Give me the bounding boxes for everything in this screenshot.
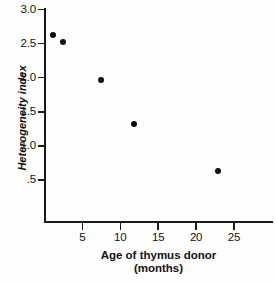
y-axis-tick — [38, 111, 45, 113]
x-axis-tick-label: 25 — [219, 231, 249, 243]
y-axis-tick-label: 3.0 — [0, 3, 36, 15]
x-axis-tick-label: 5 — [67, 231, 97, 243]
x-axis-tick — [157, 223, 159, 230]
data-point — [60, 39, 66, 45]
x-axis-tick — [233, 223, 235, 230]
x-axis-tick — [120, 223, 122, 230]
y-axis-tick-label: 2.5 — [0, 37, 36, 49]
y-axis-tick — [38, 77, 45, 79]
data-point — [131, 121, 137, 127]
x-axis-tick-label: 10 — [105, 231, 135, 243]
data-point — [50, 32, 56, 38]
x-axis-tick-label: 15 — [143, 231, 173, 243]
plot-area: 3.02.52.01.51.0.5 510152025 Heterogeneit… — [0, 0, 275, 283]
x-axis-tick — [82, 223, 84, 230]
x-axis-tick-label: 20 — [181, 231, 211, 243]
y-axis-line — [44, 8, 46, 223]
x-axis-title-line-2: (months) — [44, 262, 273, 275]
x-axis-title-line-1: Age of thymus donor — [44, 249, 273, 262]
data-point — [215, 168, 221, 174]
y-axis-title: Heterogeneity index — [16, 48, 28, 188]
scatter-plot-figure: 3.02.52.01.51.0.5 510152025 Heterogeneit… — [0, 0, 275, 283]
y-axis-tick — [38, 43, 45, 45]
y-axis-tick — [38, 179, 45, 181]
y-axis-tick — [38, 145, 45, 147]
data-point — [98, 77, 104, 83]
x-axis-title: Age of thymus donor (months) — [44, 249, 273, 275]
y-axis-tick — [38, 9, 45, 11]
x-axis-tick — [195, 223, 197, 230]
